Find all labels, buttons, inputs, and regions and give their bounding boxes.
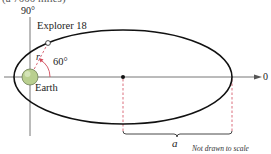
axis-arrowhead-icon [254,75,262,80]
scale-note: Not drawn to scale [192,145,249,153]
semi-major-axis-label: a [172,138,178,149]
earth-highlight [25,71,31,77]
satellite-point [46,41,51,46]
ellipse-center-dot [121,75,125,79]
radius-label: r [36,52,40,62]
orbit-diagram: (a 7000 miles) 90° Explorer 18 r 60° Ear… [0,0,271,154]
angle-60-label: 60° [53,57,68,68]
satellite-label: Explorer 18 [37,21,87,32]
earth-label: Earth [35,83,58,94]
top-caption-fragment: (a 7000 miles) [2,0,66,4]
angle-90-label: 90° [21,6,35,16]
angle-arc [40,60,50,77]
angle-0-label: 0 [263,72,268,82]
